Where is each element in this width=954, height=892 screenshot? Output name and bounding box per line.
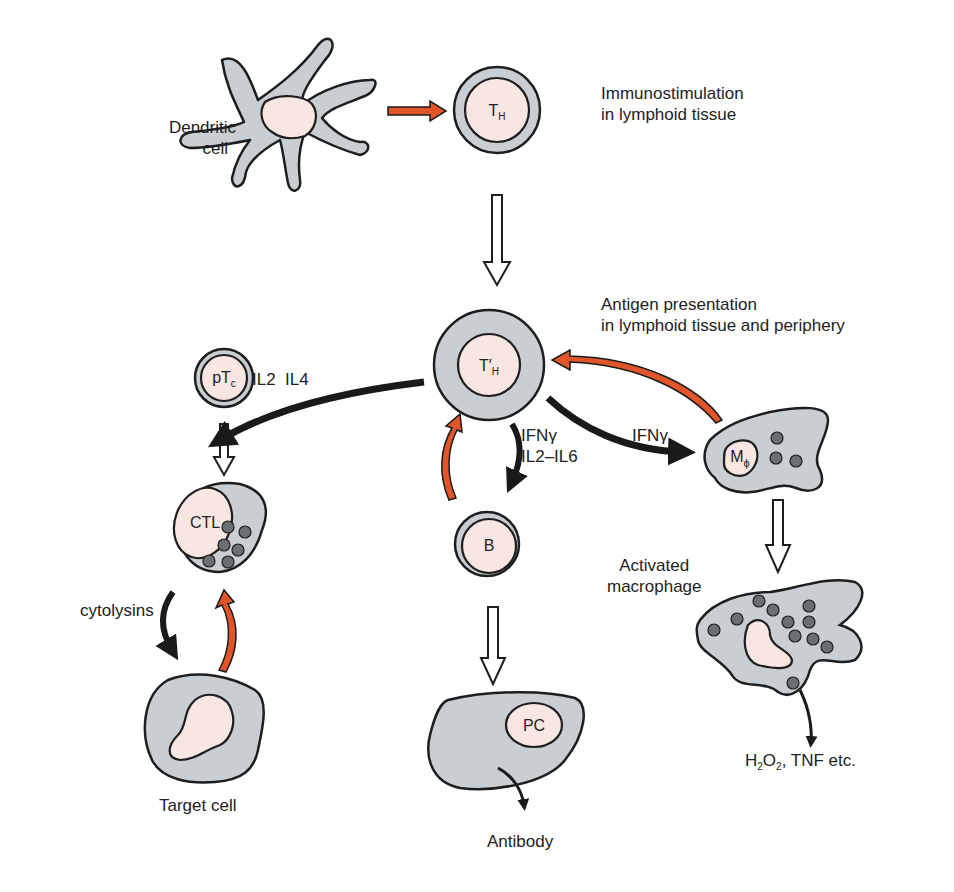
products-rest: , TNF etc. bbox=[782, 751, 856, 770]
macrophage-cell bbox=[705, 408, 828, 492]
activated-macrophage-line1: Activated bbox=[607, 555, 702, 576]
dendritic-cell-label: Dendritic cell bbox=[152, 117, 236, 159]
ctl-label: CTL bbox=[190, 514, 220, 532]
th-label-sub: H bbox=[498, 111, 505, 122]
activated-macrophage-line2: macrophage bbox=[607, 576, 702, 597]
il2-il6-label: IL2–IL6 bbox=[521, 446, 578, 467]
il2-il4-label: IL2 IL4 bbox=[252, 369, 309, 390]
differentiation-arrow-th bbox=[484, 195, 510, 285]
macrophage-label: Mϕ bbox=[730, 448, 750, 469]
dendritic-cell bbox=[180, 39, 375, 191]
th-prime-label-main: T′ bbox=[479, 357, 492, 374]
activated-macrophage-label: Activated macrophage bbox=[607, 555, 702, 597]
b-label: B bbox=[484, 537, 495, 555]
ifng-label-macrophage: IFNγ bbox=[632, 425, 668, 446]
diagram-canvas: Dendritic cell TH Immunostimulation in l… bbox=[0, 0, 954, 892]
macrophage-label-sub: ϕ bbox=[744, 457, 750, 469]
h-symbol: H bbox=[745, 751, 757, 770]
antigen-presentation-heading: Antigen presentation in lymphoid tissue … bbox=[601, 294, 845, 336]
activation-arrow-macrophage-to-th bbox=[552, 350, 722, 423]
immunostimulation-line1: Immunostimulation bbox=[601, 83, 744, 104]
o-symbol: O bbox=[763, 751, 776, 770]
ifng-il-label-b: IFNγ IL2–IL6 bbox=[521, 425, 578, 467]
dendritic-label-line1: Dendritic bbox=[152, 117, 236, 138]
dendritic-label-line2: cell bbox=[152, 138, 236, 159]
antibody-label: Antibody bbox=[487, 831, 553, 852]
th-prime-label-sub: H bbox=[492, 366, 499, 377]
macrophage-label-main: M bbox=[730, 448, 743, 465]
effector-arrow-th-to-b bbox=[512, 424, 520, 482]
pc-label: PC bbox=[523, 717, 545, 735]
activation-arrow-dendritic-to-th bbox=[388, 101, 446, 121]
target-cell-label: Target cell bbox=[159, 795, 236, 816]
ptc-label-main: pT bbox=[212, 369, 231, 386]
th-label-main: T bbox=[488, 102, 498, 119]
activated-macrophage-cell bbox=[697, 580, 863, 695]
ifng-label-b: IFNγ bbox=[521, 425, 578, 446]
th-label: TH bbox=[488, 102, 505, 122]
mediator-secretion-arrow bbox=[800, 690, 811, 742]
macrophage-products-label: H2O2, TNF etc. bbox=[745, 750, 856, 777]
th-prime-label: T′H bbox=[479, 357, 499, 377]
differentiation-arrow-b bbox=[481, 607, 505, 684]
activation-arrow-b-to-th bbox=[442, 414, 462, 500]
ptc-label: pTc bbox=[212, 369, 236, 389]
immunostimulation-line2: in lymphoid tissue bbox=[601, 104, 744, 125]
effector-arrow-ctl-to-target bbox=[163, 592, 173, 650]
cytolysins-label: cytolysins bbox=[80, 600, 154, 621]
target-cell bbox=[145, 675, 264, 783]
antigen-presentation-line2: in lymphoid tissue and periphery bbox=[601, 315, 845, 336]
ptc-label-sub: c bbox=[231, 378, 236, 389]
activation-arrow-target-to-ctl bbox=[216, 590, 236, 672]
immunostimulation-heading: Immunostimulation in lymphoid tissue bbox=[601, 83, 744, 125]
antigen-presentation-line1: Antigen presentation bbox=[601, 294, 845, 315]
differentiation-arrow-macrophage bbox=[766, 500, 790, 572]
